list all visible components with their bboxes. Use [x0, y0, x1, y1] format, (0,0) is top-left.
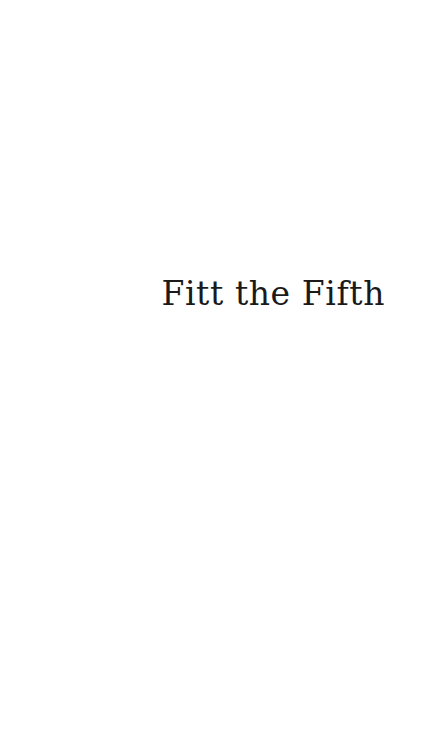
- chapter-title: Fitt the Fifth: [161, 272, 385, 316]
- book-page: Fitt the Fifth: [0, 0, 443, 746]
